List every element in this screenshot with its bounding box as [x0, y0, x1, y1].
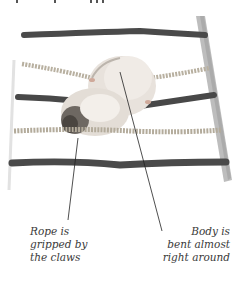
rope-rung-4	[14, 130, 222, 132]
hamster	[61, 56, 156, 136]
caption-line: gripped by	[30, 238, 100, 251]
caption-line: Rope is	[30, 225, 100, 238]
caption-line: Body is	[146, 225, 230, 238]
leader-line-rope	[68, 138, 78, 220]
rope-rung-2	[22, 64, 92, 78]
caption-line: the claws	[30, 251, 100, 264]
book-page: Rope is gripped by the claws Body is ben…	[0, 0, 240, 287]
rope-rung-1	[24, 31, 205, 35]
caption-line: right around	[146, 251, 230, 264]
rope-rung-5	[12, 162, 226, 165]
caption-line: bent almost	[146, 238, 230, 251]
annotation-body-bent: Body is bent almost right around	[146, 225, 230, 264]
annotation-rope-gripped: Rope is gripped by the claws	[30, 225, 100, 264]
